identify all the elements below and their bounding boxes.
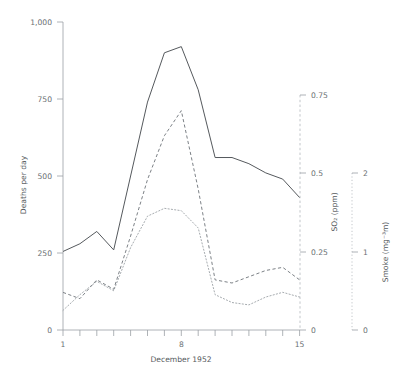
great-smog-line-chart: 1,000 750 500 250 0 Deaths per day [0, 0, 396, 374]
smoke-tick-label-1: 1 [363, 248, 368, 257]
x-tick-label-8: 8 [179, 340, 184, 349]
right-axis-smoke: 2 1 0 Smoke (mg⁻³m) [352, 169, 390, 335]
smoke-series-line [63, 208, 300, 310]
so2-tick-label-05: 0.5 [311, 169, 323, 178]
x-tick-label-1: 1 [61, 340, 66, 349]
smoke-tick-label-0: 0 [363, 326, 368, 335]
smoke-axis-title: Smoke (mg⁻³m) [381, 222, 390, 283]
so2-series-line [63, 111, 300, 299]
left-axis: 1,000 750 500 250 0 Deaths per day [19, 18, 63, 335]
so2-axis-title: SO₂ (ppm) [330, 192, 339, 231]
left-axis-title: Deaths per day [19, 155, 28, 214]
right-axis-so2: 0.75 0.5 0.25 0 SO₂ (ppm) [300, 91, 339, 335]
bottom-axis: 1 8 15 December 1952 [61, 330, 305, 364]
left-tick-label-0: 0 [47, 326, 52, 335]
deaths-series-line [63, 47, 300, 252]
so2-tick-label-025: 0.25 [311, 248, 328, 257]
left-tick-label-1000: 1,000 [30, 18, 52, 27]
left-tick-label-500: 500 [38, 172, 53, 181]
chart-container: 1,000 750 500 250 0 Deaths per day [0, 0, 396, 374]
so2-tick-label-075: 0.75 [311, 91, 328, 100]
x-tick-label-15: 15 [295, 340, 305, 349]
left-tick-label-750: 750 [38, 95, 53, 104]
plot-lines [63, 47, 300, 311]
smoke-tick-label-2: 2 [363, 169, 368, 178]
bottom-axis-title: December 1952 [150, 355, 211, 364]
so2-tick-label-0: 0 [311, 326, 316, 335]
left-tick-label-250: 250 [38, 249, 53, 258]
